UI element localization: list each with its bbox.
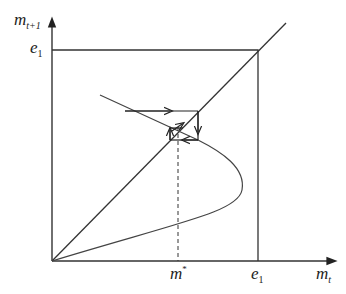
map-curve [52, 95, 242, 261]
45-degree-line [52, 23, 286, 261]
cobweb-diagram [0, 0, 346, 294]
y-tick-e1-label: e1 [30, 38, 43, 59]
x-axis-label: mt [316, 264, 331, 285]
y-axis-label: mt+1 [14, 10, 41, 31]
x-tick-e1-label: e1 [251, 264, 264, 285]
x-tick-mstar-label: m* [170, 264, 187, 284]
cobweb-path [125, 111, 198, 140]
